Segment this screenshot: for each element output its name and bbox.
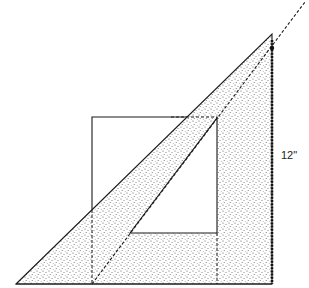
apex-point [270, 46, 274, 50]
set-square-triangle [16, 34, 272, 284]
dimension-label: 12" [281, 149, 297, 161]
diagram-canvas: 12" [0, 0, 309, 288]
